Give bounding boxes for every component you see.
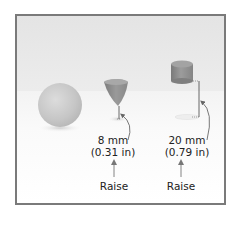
cylinder-inch-value: (0.79 in): [160, 146, 214, 158]
cylinder-object: [171, 61, 199, 120]
cylinder-measurement-label: 20 mm (0.79 in): [160, 134, 214, 158]
cylinder-raise-label: Raise: [165, 180, 197, 192]
cylinder-mm-value: 20 mm: [160, 134, 214, 146]
cylinder-dimension-line: [192, 81, 210, 140]
up-arrow-icon: [178, 159, 184, 177]
cone-mm-value: 8 mm: [86, 134, 140, 146]
cone-inch-value: (0.31 in): [86, 146, 140, 158]
cone-raise-label: Raise: [98, 180, 130, 192]
cone-measurement-label: 8 mm (0.31 in): [86, 134, 140, 158]
cone-object: [104, 79, 128, 122]
sphere-object: [38, 83, 82, 132]
up-arrow-icon: [111, 159, 117, 177]
